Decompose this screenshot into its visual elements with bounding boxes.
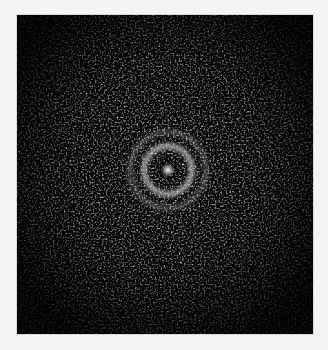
noise-pattern [17, 15, 313, 334]
diffraction-image [17, 15, 313, 334]
